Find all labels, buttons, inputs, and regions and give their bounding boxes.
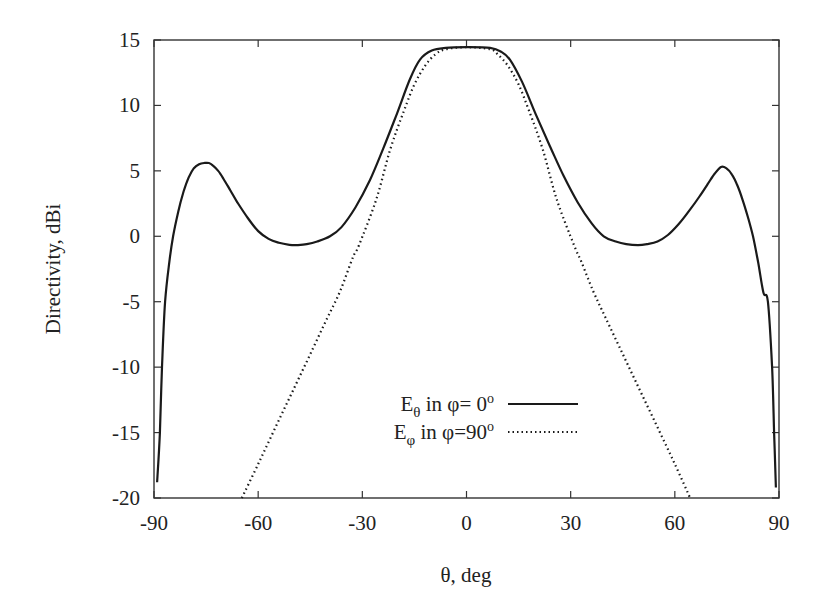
y-tick-label: -5 <box>123 290 141 314</box>
x-tick-label: -60 <box>244 511 272 535</box>
x-tick-label: 0 <box>461 511 472 535</box>
x-axis-ticks: -90-60-300306090 <box>140 40 790 535</box>
y-tick-label: 5 <box>130 159 141 183</box>
x-tick-label: -30 <box>348 511 376 535</box>
x-tick-label: 90 <box>769 511 790 535</box>
y-tick-label: 0 <box>130 224 141 248</box>
legend-label: Eφ in φ=90o <box>394 419 494 448</box>
directivity-chart: 151050-5-10-15-20 -90-60-300306090 Eθ in… <box>0 0 833 614</box>
y-tick-label: -15 <box>112 421 140 445</box>
y-tick-label: -20 <box>112 486 140 510</box>
y-tick-label: 15 <box>119 28 140 52</box>
y-axis-title: Directivity, dBi <box>41 204 65 335</box>
x-axis-title: θ, deg <box>441 563 492 587</box>
legend: Eθ in φ= 0oEφ in φ=90o <box>394 391 578 448</box>
y-tick-label: 10 <box>119 93 140 117</box>
y-tick-label: -10 <box>112 355 140 379</box>
legend-label: Eθ in φ= 0o <box>400 391 494 420</box>
x-tick-label: 30 <box>560 511 581 535</box>
x-tick-label: 60 <box>664 511 685 535</box>
x-tick-label: -90 <box>140 511 168 535</box>
